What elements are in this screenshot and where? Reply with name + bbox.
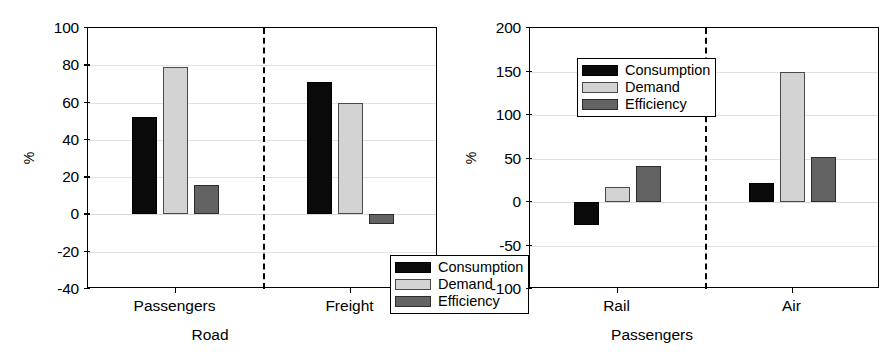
y-axis-tick-mark (526, 288, 532, 289)
y-axis-tick-label: 0 (11, 206, 79, 222)
chart-panel-passengers: % Passengers Consumption Demand Efficien… (442, 0, 887, 354)
y-axis-tick-label: 60 (11, 95, 79, 111)
y-axis-tick-label: -20 (11, 244, 79, 260)
y-axis-tick-mark (526, 27, 532, 28)
bar-passengers-demand (163, 67, 188, 214)
y-axis-tick-mark (526, 245, 532, 246)
bar-freight-demand (338, 103, 363, 215)
bar-air-demand (780, 72, 805, 203)
legend-swatch-consumption-icon (395, 262, 431, 273)
y-axis-tick-mark (84, 213, 90, 214)
legend-label-consumption: Consumption (625, 63, 710, 78)
legend-passengers: Consumption Demand Efficiency (577, 58, 716, 117)
x-axis-title-passengers: Passengers (592, 326, 712, 344)
legend-swatch-demand-icon (582, 82, 618, 93)
y-axis-tick-mark (84, 288, 90, 289)
bar-air-consumption (749, 183, 774, 202)
bar-rail-efficiency (636, 166, 661, 202)
y-axis-tick-label: 200 (453, 20, 521, 36)
figure-two-bar-charts: % Road Consumption Demand Efficiency -40… (0, 0, 887, 354)
y-axis-tick-mark (84, 102, 90, 103)
bar-rail-consumption (574, 202, 599, 225)
legend-swatch-consumption-icon (582, 65, 618, 76)
y-axis-tick-mark (84, 251, 90, 252)
gridline (88, 103, 436, 104)
legend-swatch-demand-icon (395, 279, 431, 290)
y-axis-tick-label: -100 (453, 281, 521, 297)
bar-passengers-consumption (132, 117, 157, 214)
y-axis-tick-label: 100 (453, 107, 521, 123)
bar-passengers-efficiency (194, 185, 219, 215)
legend-label-efficiency: Efficiency (625, 97, 687, 112)
gridline (530, 246, 878, 247)
y-axis-title-road: % (21, 152, 37, 164)
legend-swatch-efficiency-icon (582, 99, 618, 110)
y-axis-tick-label: -40 (11, 281, 79, 297)
y-axis-tick-label: 40 (11, 132, 79, 148)
x-axis-group-label: Freight (270, 297, 430, 315)
x-axis-group-label: Air (712, 297, 872, 315)
x-axis-title-road: Road (150, 326, 270, 344)
y-axis-tick-mark (526, 114, 532, 115)
y-axis-tick-mark (526, 71, 532, 72)
y-axis-tick-mark (84, 27, 90, 28)
bar-freight-consumption (307, 82, 332, 214)
gridline (88, 252, 436, 253)
legend-item-consumption: Consumption (582, 62, 710, 79)
x-axis-tick-mark (617, 288, 618, 293)
x-axis-group-label: Rail (537, 297, 697, 315)
y-axis-tick-label: 80 (11, 57, 79, 73)
x-axis-tick-mark (792, 288, 793, 293)
legend-label-demand: Demand (625, 80, 680, 95)
plot-area-road (87, 27, 437, 288)
x-axis-group-label: Passengers (95, 297, 255, 315)
y-axis-tick-mark (84, 64, 90, 65)
y-axis-tick-mark (526, 158, 532, 159)
legend-item-demand: Demand (582, 79, 710, 96)
x-axis-tick-mark (350, 288, 351, 293)
x-axis-tick-mark (175, 288, 176, 293)
y-axis-tick-label: 100 (11, 20, 79, 36)
y-axis-tick-mark (84, 139, 90, 140)
y-axis-tick-label: 50 (453, 151, 521, 167)
y-axis-tick-mark (84, 176, 90, 177)
legend-item-efficiency: Efficiency (582, 96, 710, 113)
chart-panel-road: % Road Consumption Demand Efficiency -40… (0, 0, 445, 354)
bar-freight-efficiency (369, 214, 394, 223)
y-axis-tick-label: 20 (11, 169, 79, 185)
y-axis-tick-label: -50 (453, 238, 521, 254)
bar-rail-demand (605, 187, 630, 202)
group-separator (263, 28, 265, 289)
bar-air-efficiency (811, 157, 836, 202)
y-axis-tick-mark (526, 201, 532, 202)
y-axis-tick-label: 0 (453, 194, 521, 210)
y-axis-tick-label: 150 (453, 64, 521, 80)
gridline (88, 65, 436, 66)
